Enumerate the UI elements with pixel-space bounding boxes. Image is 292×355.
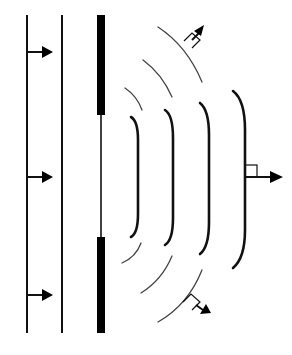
edge-arcs-lower: [122, 243, 202, 322]
arrowhead-icon: [42, 289, 53, 301]
propagation-arrow-forward: [245, 165, 283, 183]
incident-rays: [27, 46, 53, 301]
edge-arc-lower-3: [158, 270, 202, 322]
barrier-bottom: [97, 237, 105, 333]
propagation-arrow-upper: [184, 25, 204, 48]
arrowhead-icon: [194, 25, 204, 36]
edge-arcs-upper: [125, 27, 202, 110]
barrier: [97, 15, 105, 333]
edge-arc-lower-1: [122, 243, 141, 263]
edge-arc-lower-2: [141, 256, 172, 293]
incident-ray-top: [27, 46, 53, 58]
edge-arc-upper-1: [125, 88, 142, 110]
diffracted-wavefront-2: [165, 110, 173, 245]
right-angle-marker: [183, 294, 200, 310]
diffracted-wavefronts: [131, 91, 245, 268]
incident-ray-middle: [27, 171, 53, 183]
edge-arc-upper-2: [143, 60, 172, 97]
arrowhead-icon: [42, 46, 53, 58]
diffracted-wavefront-3: [200, 103, 209, 254]
propagation-arrow-lower: [183, 294, 211, 314]
diffracted-wavefront-1: [131, 117, 138, 237]
arrowhead-icon: [42, 171, 53, 183]
diffraction-diagram: [0, 0, 292, 355]
right-angle-marker: [245, 165, 257, 177]
diffracted-wavefront-4: [233, 91, 245, 268]
incident-ray-bottom: [27, 289, 53, 301]
barrier-top: [97, 15, 105, 115]
arrowhead-icon: [270, 171, 283, 183]
